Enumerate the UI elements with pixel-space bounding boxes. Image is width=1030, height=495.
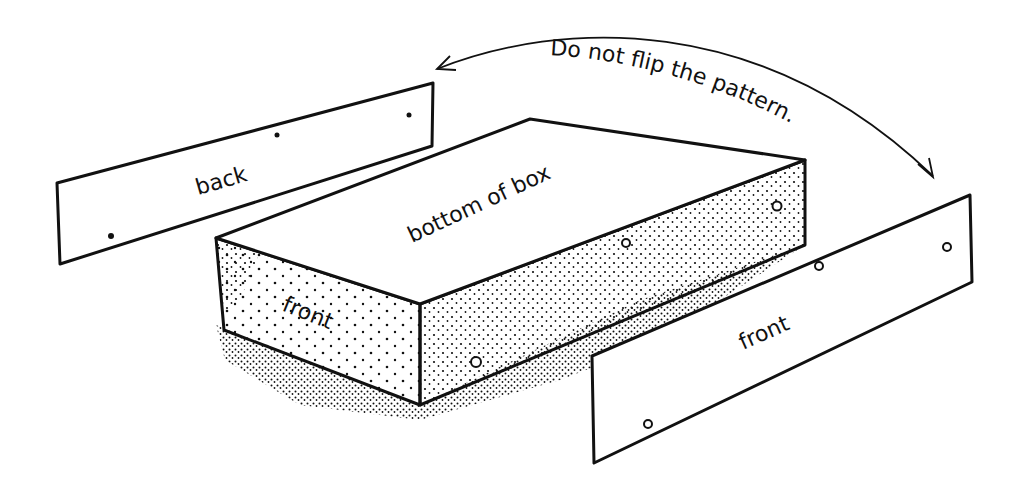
callout-text: Do not flip the pattern. bbox=[550, 35, 801, 128]
diagram-canvas: back bottom of box front front Do not fl… bbox=[0, 0, 1030, 495]
